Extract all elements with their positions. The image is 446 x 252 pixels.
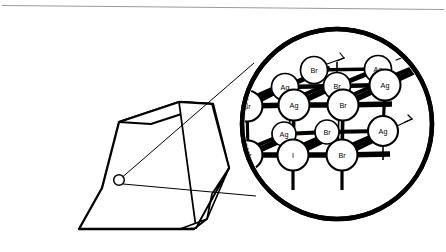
atom-label: Ag <box>381 81 390 90</box>
lattice-atom: Br <box>328 90 359 121</box>
lattice-atom: Br <box>301 57 328 84</box>
atom-label: Ag <box>280 130 289 139</box>
atom-label: Ag <box>290 101 299 110</box>
atom-label: Br <box>323 128 331 137</box>
atom-label: Ag <box>379 127 388 136</box>
atom-label: Br <box>338 151 346 160</box>
figure-root: BrAgAgBrAgBrAgAgBrAgBrBrIBr <box>0 0 446 252</box>
lattice-atom: Ag <box>368 116 398 146</box>
atom-label: Br <box>310 66 318 75</box>
atom-label: I <box>292 151 294 160</box>
lattice-atom: I <box>278 140 309 171</box>
lattice-atom: Br <box>327 140 358 171</box>
lattice-atom: Ag <box>279 90 310 121</box>
atom-label: Br <box>339 101 347 110</box>
lattice-atom: Ag <box>370 70 401 101</box>
